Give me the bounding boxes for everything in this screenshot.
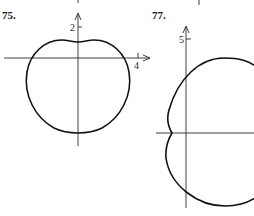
graph-75: 75. 2 4 [2, 9, 150, 146]
y-tick-label: 2 [70, 22, 75, 33]
y-tick-label: 5 [179, 34, 184, 45]
figure-label-77: 77. [152, 9, 166, 21]
polar-graphs-figure: 75. 2 4 77. 5 [0, 0, 254, 216]
x-tick-label: 4 [134, 60, 139, 71]
polar-curve-77 [166, 58, 254, 206]
figure-label-75: 75. [2, 9, 16, 21]
graph-77: 77. 5 [152, 9, 254, 208]
